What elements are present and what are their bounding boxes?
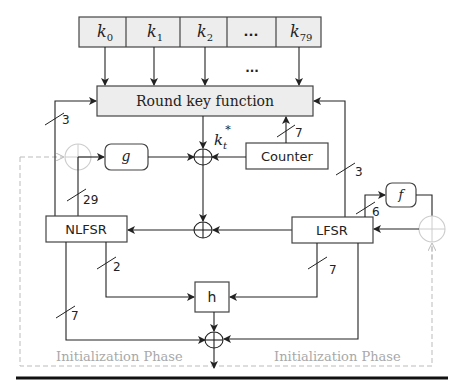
lfsr-to-output-wire [224, 243, 358, 339]
cipher-diagram: k0 k1 k2 ... k79 ... Round key function … [0, 0, 460, 387]
phase-label-right: Initialization Phase [274, 349, 401, 364]
nlfsr-box: NLFSR [46, 216, 127, 242]
initialization-path [20, 157, 432, 366]
svg-text:kt*: kt* [214, 123, 231, 151]
svg-text:7: 7 [329, 263, 337, 277]
svg-text:LFSR: LFSR [316, 223, 348, 238]
nlfsr-to-output-bus: 7 [56, 242, 205, 340]
key-register: k0 k1 k2 ... k79 [79, 17, 321, 47]
svg-text:Counter: Counter [261, 149, 314, 164]
svg-text:29: 29 [83, 193, 98, 207]
key-arrows-ellipsis: ... [245, 61, 259, 75]
round-key-function-box: Round key function [97, 86, 313, 116]
svg-text:3: 3 [355, 165, 363, 179]
svg-text:NLFSR: NLFSR [65, 222, 107, 237]
g-function-box: g [105, 144, 194, 170]
phase-label-left: Initialization Phase [56, 349, 183, 364]
svg-text:h: h [208, 289, 217, 305]
lfsr-to-h-bus: 7 [230, 243, 337, 297]
xor-feedback [128, 222, 292, 238]
round-key-output: kt* [203, 116, 231, 151]
lfsr-to-f-bus: 6 [356, 195, 385, 219]
lfsr-box: LFSR [292, 217, 373, 243]
svg-text:3: 3 [62, 113, 70, 127]
h-function-box: h [195, 282, 229, 331]
svg-text:g: g [122, 148, 131, 164]
key-cell-ellipsis: ... [244, 24, 259, 39]
svg-text:7: 7 [295, 126, 303, 140]
xor-round-key [194, 149, 212, 165]
init-xor-right [374, 216, 445, 242]
svg-text:7: 7 [71, 309, 79, 323]
svg-text:2: 2 [113, 260, 121, 274]
round-key-function-label: Round key function [136, 93, 274, 109]
xor-output [205, 332, 223, 368]
svg-text:6: 6 [372, 205, 380, 219]
nlfsr-to-h-bus: 2 [97, 242, 194, 297]
key-arrows: ... [105, 47, 299, 85]
